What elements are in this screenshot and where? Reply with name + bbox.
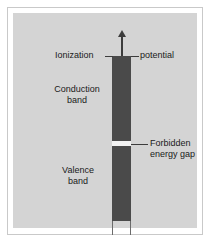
- band-column-leg-right: [130, 221, 131, 235]
- energy-arrow-shaft-icon: [121, 35, 123, 56]
- band-column-leg-left: [112, 221, 113, 235]
- conduction-band-label-line2: band: [47, 95, 107, 106]
- forbidden-gap-leader-line: [131, 144, 148, 145]
- diagram-panel: Ionization potential Conduction band Val…: [13, 13, 197, 228]
- valence-band-label: Valence band: [49, 165, 107, 187]
- conduction-band-bar: [112, 56, 131, 141]
- conduction-band-label-line1: Conduction: [47, 84, 107, 95]
- valence-band-label-line1: Valence: [49, 165, 107, 176]
- conduction-band-label: Conduction band: [47, 84, 107, 106]
- potential-leader-line: [131, 56, 139, 57]
- forbidden-energy-gap-label-line1: Forbidden: [150, 138, 208, 149]
- valence-band-label-line2: band: [49, 176, 107, 187]
- ionization-label: Ionization: [55, 50, 94, 61]
- forbidden-energy-gap-label-line2: energy gap: [150, 149, 208, 160]
- forbidden-energy-gap-label: Forbidden energy gap: [150, 138, 208, 160]
- ionization-leader-line: [105, 56, 113, 57]
- potential-label: potential: [140, 50, 174, 61]
- energy-band-diagram: Ionization potential Conduction band Val…: [0, 0, 210, 242]
- valence-band-bar: [112, 146, 131, 221]
